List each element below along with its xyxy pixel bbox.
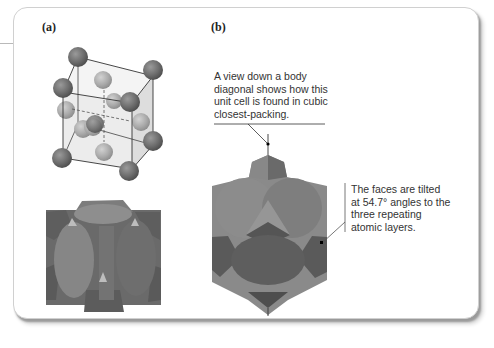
fcc-space-filling-cube	[46, 200, 161, 312]
figure-graphics	[0, 0, 494, 348]
body-diagonal-view	[212, 124, 345, 316]
fcc-unit-cell-ball-model	[52, 47, 163, 181]
leader-line-top	[248, 124, 268, 144]
